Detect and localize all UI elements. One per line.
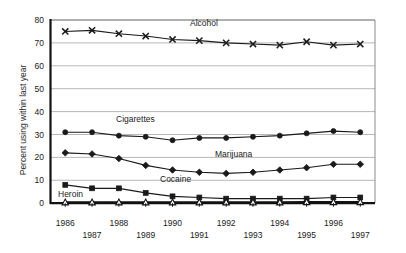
series-label-marijuana: Marijuana: [215, 149, 253, 159]
x-tick-label-1988: 1988: [109, 218, 128, 228]
x-tick-label-1992: 1992: [217, 218, 236, 228]
series-label-cigarettes: Cigarettes: [116, 114, 155, 124]
line-chart: Percent using within last year 010203040…: [0, 0, 406, 253]
x-tick-label-1989: 1989: [136, 230, 155, 240]
x-tick-label-1987: 1987: [83, 230, 102, 240]
x-tick-label-1993: 1993: [244, 230, 263, 240]
series-label-alcohol: Alcohol: [190, 18, 218, 28]
data-point-marker: [63, 130, 68, 135]
x-tick-label-1995: 1995: [297, 230, 316, 240]
y-tick-label: 60: [35, 61, 45, 71]
data-point-marker: [224, 135, 229, 140]
series-label-heroin: Heroin: [58, 189, 83, 199]
data-point-marker: [63, 182, 68, 187]
y-tick-label: 40: [35, 107, 45, 117]
x-tick-label-1997: 1997: [351, 230, 370, 240]
y-tick-label: 80: [35, 15, 45, 25]
data-point-marker: [277, 133, 282, 138]
x-tick-label-1986: 1986: [56, 218, 75, 228]
series-label-cocaine: Cocaine: [160, 174, 191, 184]
y-axis-title: Percent using within last year: [18, 65, 28, 176]
x-tick-label-1994: 1994: [270, 218, 289, 228]
y-tick-label: 50: [35, 84, 45, 94]
data-point-marker: [90, 186, 95, 191]
data-point-marker: [143, 134, 148, 139]
data-point-marker: [304, 131, 309, 136]
data-point-marker: [170, 138, 175, 143]
data-point-marker: [116, 133, 121, 138]
data-point-marker: [143, 190, 148, 195]
data-point-marker: [358, 130, 363, 135]
data-point-marker: [116, 186, 121, 191]
y-tick-label: 30: [35, 130, 45, 140]
y-tick-label: 10: [35, 175, 45, 185]
data-point-marker: [197, 135, 202, 140]
data-point-marker: [250, 134, 255, 139]
y-tick-label: 70: [35, 38, 45, 48]
y-axis-tick-labels: 01020304050607080: [35, 15, 45, 208]
x-tick-label-1990: 1990: [163, 218, 182, 228]
chart-canvas: Percent using within last year 010203040…: [0, 0, 406, 253]
y-tick-label: 0: [39, 198, 44, 208]
data-point-marker: [331, 129, 336, 134]
x-tick-label-1996: 1996: [324, 218, 343, 228]
chart-background: [0, 0, 406, 253]
data-point-marker: [90, 130, 95, 135]
y-tick-label: 20: [35, 152, 45, 162]
x-tick-label-1991: 1991: [190, 230, 209, 240]
